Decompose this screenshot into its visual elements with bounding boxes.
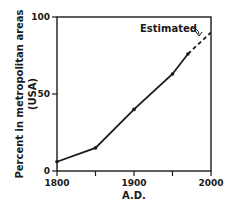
- x-tick-label: 2000: [198, 178, 223, 188]
- axes: [57, 17, 211, 171]
- x-axis-label: A.D.: [122, 190, 146, 201]
- data-point: [132, 108, 136, 112]
- data-point: [55, 160, 59, 164]
- y-tick-label: 0: [44, 166, 50, 176]
- y-tick-label: 100: [31, 12, 50, 22]
- estimated-annotation: Estimated: [140, 23, 197, 34]
- svg-text:Percent in metropolitan areas: Percent in metropolitan areas: [14, 9, 25, 178]
- chart: 180019002000050100 A.D. Percent in metro…: [0, 0, 235, 209]
- data-point: [94, 146, 98, 150]
- svg-text:(USA): (USA): [27, 78, 38, 110]
- data-point: [171, 72, 175, 76]
- x-tick-label: 1900: [121, 178, 146, 188]
- y-tick-label: 50: [37, 89, 50, 99]
- y-axis-label: Percent in metropolitan areas (USA): [14, 9, 38, 178]
- series-observed: [57, 54, 188, 162]
- x-tick-label: 1800: [44, 178, 69, 188]
